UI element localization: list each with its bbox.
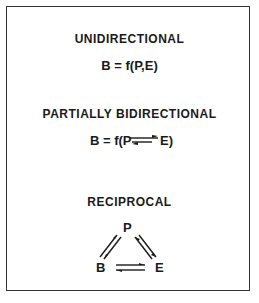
arrows — [0, 0, 259, 303]
bidirectional-arrow-icon — [130, 135, 158, 145]
b-e-arrows-icon — [116, 263, 145, 272]
p-e-arrows-icon — [135, 235, 156, 259]
b-p-arrows-icon — [100, 235, 121, 259]
